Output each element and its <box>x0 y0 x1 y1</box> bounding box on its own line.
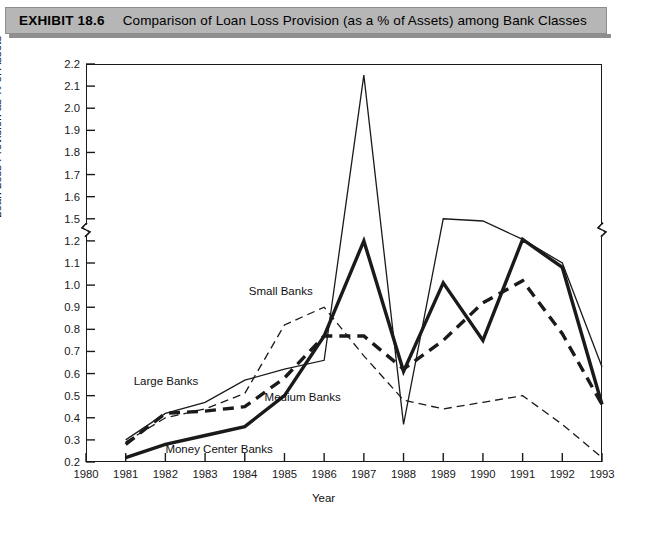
annotation-money-center-banks: Money Center Banks <box>165 443 272 455</box>
exhibit-header-bar: EXHIBIT 18.6 Comparison of Loan Loss Pro… <box>5 7 607 34</box>
plot-lines <box>0 40 647 535</box>
annotation-large-banks: Large Banks <box>134 375 199 387</box>
annotation-medium-banks: Medium Banks <box>265 391 341 403</box>
x-axis-title: Year <box>0 492 647 504</box>
series-line-money-center-banks <box>126 239 602 457</box>
exhibit-title: Comparison of Loan Loss Provision (as a … <box>123 13 587 28</box>
annotation-small-banks: Small Banks <box>249 285 313 297</box>
exhibit-number: EXHIBIT 18.6 <box>19 13 105 28</box>
exhibit-header-shadow <box>9 34 611 38</box>
series-line-medium-banks <box>126 281 602 445</box>
chart-container: Loan Loss Provision as % of Assets 0.20.… <box>0 40 647 535</box>
